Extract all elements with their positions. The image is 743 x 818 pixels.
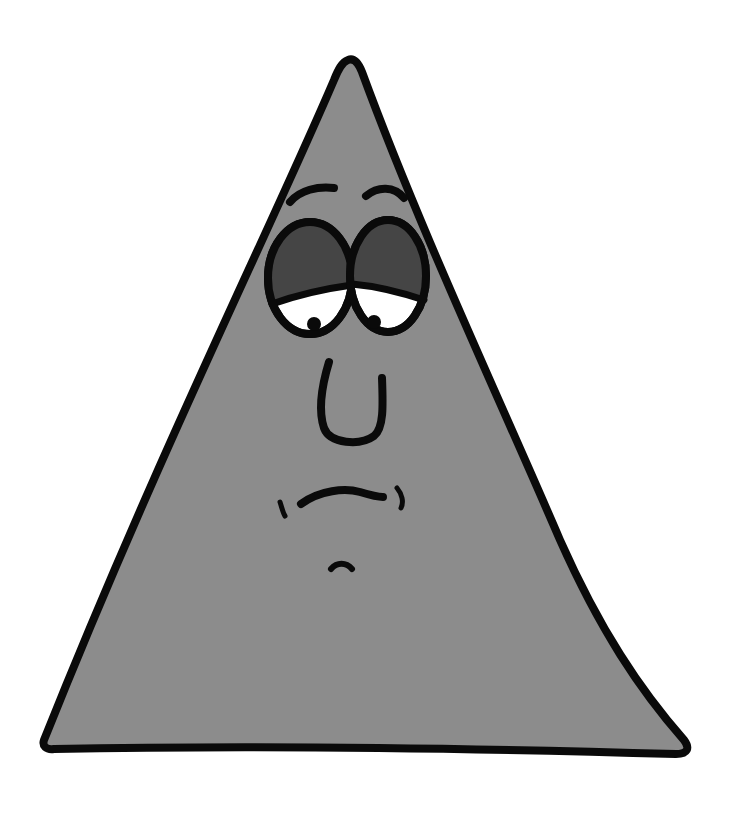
left-eye — [268, 222, 352, 334]
left-pupil — [307, 317, 321, 331]
right-eye — [350, 220, 426, 332]
sad-triangle-illustration — [0, 0, 743, 818]
right-pupil — [367, 315, 381, 329]
triangle-body — [43, 60, 687, 755]
